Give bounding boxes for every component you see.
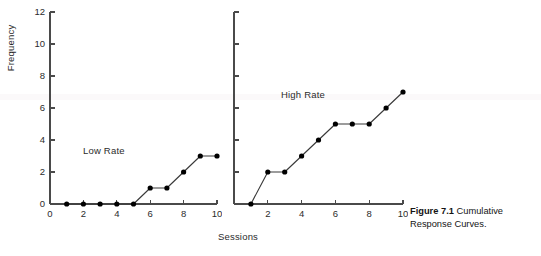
data-point-marker (131, 201, 136, 206)
figure-caption-label: Figure 7.1 (410, 206, 454, 216)
data-series-line (67, 156, 217, 204)
data-point-marker (198, 153, 203, 158)
data-point-marker (81, 201, 86, 206)
y-tick-label: 4 (40, 134, 45, 145)
data-point-marker (148, 185, 153, 190)
x-tick-label: 8 (181, 208, 186, 219)
data-point-marker (367, 121, 372, 126)
high-rate-plot-svg: 246810 (228, 8, 408, 228)
x-tick-label: 2 (81, 208, 86, 219)
x-tick-label: 6 (333, 208, 338, 219)
x-tick-label: 0 (47, 208, 52, 219)
y-tick-label: 0 (40, 198, 45, 209)
data-point-marker (282, 169, 287, 174)
chart-panel-high-rate: 246810 (228, 8, 408, 228)
series-label-high-rate: High Rate (281, 89, 325, 100)
x-tick-label: 10 (398, 208, 408, 219)
x-tick-label: 8 (367, 208, 372, 219)
y-tick-label: 10 (34, 38, 45, 49)
low-rate-plot-svg: 0246810120246810 (34, 8, 222, 228)
data-series-line (251, 92, 403, 204)
data-point-marker (181, 169, 186, 174)
x-tick-label: 4 (114, 208, 119, 219)
data-point-marker (265, 169, 270, 174)
data-point-marker (114, 201, 119, 206)
y-tick-label: 12 (34, 8, 45, 17)
data-point-marker (350, 121, 355, 126)
series-label-low-rate: Low Rate (83, 145, 125, 156)
data-point-marker (98, 201, 103, 206)
figure-caption: Figure 7.1 Cumulative Response Curves. (410, 205, 541, 231)
data-point-marker (299, 153, 304, 158)
data-point-marker (64, 201, 69, 206)
data-point-marker (248, 201, 253, 206)
x-tick-label: 2 (265, 208, 270, 219)
data-point-marker (214, 153, 219, 158)
y-tick-label: 2 (40, 166, 45, 177)
y-axis-title: Frequency (5, 3, 19, 93)
data-point-marker (333, 121, 338, 126)
y-tick-label: 6 (40, 102, 45, 113)
x-tick-label: 6 (148, 208, 153, 219)
figure-container: 0246810120246810 246810 Frequency Sessio… (0, 0, 541, 256)
data-point-marker (316, 137, 321, 142)
data-point-marker (164, 185, 169, 190)
x-tick-label: 10 (212, 208, 222, 219)
data-point-marker (400, 89, 405, 94)
x-axis-title: Sessions (178, 231, 298, 242)
y-tick-label: 8 (40, 70, 45, 81)
data-point-marker (384, 105, 389, 110)
x-tick-label: 4 (299, 208, 304, 219)
chart-panel-low-rate: 0246810120246810 (34, 8, 222, 228)
